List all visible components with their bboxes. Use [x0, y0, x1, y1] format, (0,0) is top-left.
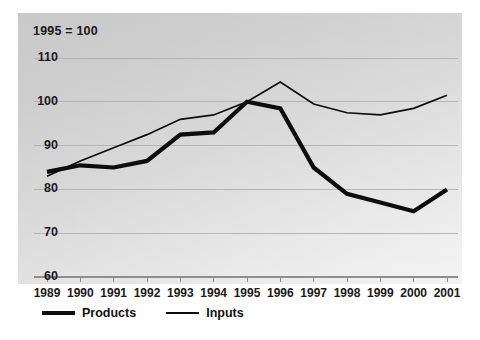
y-tick-label: 70: [28, 225, 58, 239]
series-line-inputs: [47, 82, 447, 176]
y-tick-label: 60: [28, 269, 58, 283]
y-tick-label: 90: [28, 138, 58, 152]
y-tick-label: 110: [28, 50, 58, 64]
y-tick-label: 80: [28, 181, 58, 195]
legend-label-inputs: Inputs: [206, 306, 244, 320]
legend-swatch-inputs-icon: [166, 312, 199, 314]
x-axis-ticks: [47, 277, 447, 282]
x-tick-label: 2001: [427, 286, 467, 300]
chart-legend: Products Inputs: [42, 306, 244, 320]
y-tick-label: 100: [28, 94, 58, 108]
chart-figure: 1995 = 100 11010090807060 19891990199119…: [0, 0, 480, 340]
legend-item-products: Products: [42, 306, 136, 320]
legend-item-inputs: Inputs: [166, 306, 244, 320]
legend-swatch-products-icon: [42, 311, 75, 315]
legend-label-products: Products: [82, 306, 136, 320]
series-line-products: [47, 102, 447, 212]
